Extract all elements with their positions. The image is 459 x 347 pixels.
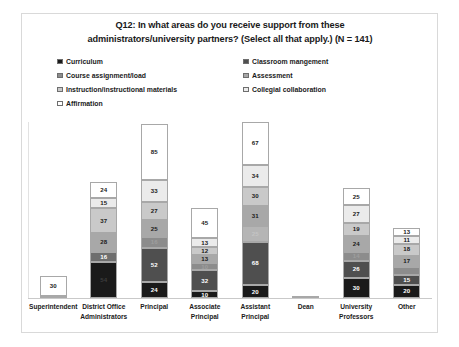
bar-segment-value-label: 24 [100,187,107,193]
bar-segment[interactable]: 19 [343,223,370,236]
bar-segment-value-label: 52 [151,262,158,268]
bar-segment[interactable]: 31 [242,206,269,226]
bar-segment[interactable]: 24 [90,182,117,198]
x-axis-category-label: Superintendent [28,302,79,312]
bar-stack[interactable]: 25271924142630 [343,122,370,298]
legend-item[interactable]: Instruction/instructional materials [57,86,177,93]
bar-segment[interactable] [40,296,67,298]
bar-segment[interactable]: 16 [90,252,117,263]
bar-segment[interactable] [393,267,420,275]
bar-segment[interactable]: 14 [343,252,370,261]
x-axis-category-label: AssistantPrincipal [230,302,281,321]
bar-stack[interactable]: 45131213103210 [191,122,218,298]
legend-swatch-icon [243,87,249,93]
bar-segment[interactable]: 16 [141,237,168,248]
bar-segment[interactable]: 12 [191,247,218,255]
bar-segment[interactable]: 26 [343,261,370,278]
bar-segment-value-label: 26 [353,266,360,272]
bar-segment[interactable]: 11 [393,236,420,243]
bar-segment-value-label: 30 [252,193,259,199]
legend-item[interactable]: Affirmation [57,100,103,107]
bar-segment[interactable]: 20 [393,285,420,298]
bar-segment[interactable]: 17 [393,256,420,267]
bar-segment-value-label: 28 [100,239,107,245]
bar-segment[interactable]: 20 [242,285,269,298]
bar-segment-value-label: 10 [201,264,208,270]
bar-segment[interactable]: 85 [141,124,168,180]
bar-segment[interactable]: 68 [242,242,269,285]
legend-swatch-icon [243,59,249,65]
chart-title-line-1: Q12: In what areas do you receive suppor… [30,18,430,32]
legend-item[interactable]: Collegial collaboration [243,86,326,93]
bar-segment-value-label: 37 [100,218,107,224]
bar-segment[interactable]: 24 [343,236,370,252]
bar-segment[interactable]: 28 [90,233,117,252]
x-axis-category-label-line: Dean [281,302,332,312]
bar-stack[interactable]: 241537281654 [90,122,117,298]
bar-segment-value-label: 54 [100,277,107,283]
bar-segment[interactable]: 30 [40,276,67,296]
x-axis-category-label-line: Principal [129,302,180,312]
bar-stack[interactable] [292,122,319,298]
bar-segment[interactable]: 54 [90,262,117,298]
legend-item[interactable]: Curriculum [57,58,103,65]
bar-segment-value-label: 11 [404,237,410,243]
legend-swatch-icon [57,59,63,65]
legend-item-label: Assessment [252,72,293,79]
bar-segment[interactable]: 15 [90,198,117,208]
legend-item[interactable]: Classroom mangement [243,58,328,65]
bar-segment[interactable]: 10 [191,263,218,270]
legend-item-label: Course assignment/load [66,72,146,79]
legend-item[interactable]: Assessment [243,72,293,79]
bar-segment-value-label: 30 [353,285,360,291]
bar-stack[interactable]: 85332725165224 [141,122,168,298]
bar-segment[interactable]: 15 [393,275,420,285]
legend-item-label: Instruction/instructional materials [66,86,177,93]
bar-stack[interactable]: 67343031256820 [242,122,269,298]
bar-segment-value-label: 32 [201,278,208,284]
bar-stack[interactable]: 30 [40,122,67,298]
bar-segment[interactable]: 25 [343,188,370,205]
chart-title: Q12: In what areas do you receive suppor… [30,18,430,46]
bar-segment-value-label: 27 [353,211,360,217]
plot-area: 3024153728165485332725165224451312131032… [28,122,432,298]
x-axis-category-label-line: University [331,302,382,312]
bar-segment-value-label: 33 [151,188,158,194]
bar-segment-value-label: 15 [100,200,107,206]
bar-segment[interactable]: 30 [343,278,370,298]
x-axis-category-label-line: District Office [79,302,130,312]
legend-swatch-icon [57,87,63,93]
legend-item-label: Classroom mangement [252,58,328,65]
bar-segment[interactable]: 10 [191,291,218,298]
bar-segment[interactable]: 27 [141,202,168,220]
bar-segment-value-label: 68 [252,260,259,266]
bar-segment[interactable]: 25 [141,220,168,237]
bar-segment[interactable]: 13 [191,255,218,264]
bar-segment[interactable]: 27 [343,205,370,223]
bar-segment[interactable]: 34 [242,165,269,187]
bar-segment[interactable]: 18 [393,244,420,256]
bar-segment-value-label: 45 [201,220,208,226]
bar-segment[interactable]: 67 [242,122,269,165]
bar-segment[interactable]: 52 [141,248,168,283]
bar-segment[interactable]: 45 [191,208,218,238]
bar-segment[interactable]: 24 [141,282,168,298]
bar-segment[interactable]: 30 [242,187,269,206]
bar-segment[interactable] [292,296,319,298]
bar-segment[interactable]: 37 [90,208,117,233]
bar-segment[interactable]: 33 [141,180,168,202]
bar-segment[interactable]: 13 [393,228,420,237]
bar-segment[interactable]: 32 [191,270,218,291]
legend-swatch-icon [243,73,249,79]
bar-stack[interactable]: 131118171520 [393,122,420,298]
bar-segment-value-label: 13 [403,229,410,235]
bar-segment-value-label: 16 [100,254,107,260]
bar-segment[interactable]: 25 [242,226,269,242]
bar-segment[interactable]: 13 [191,238,218,247]
x-axis-category-label-line: Assistant [230,302,281,312]
x-axis-category-label-line: Administrators [79,312,130,322]
bar-segment-value-label: 20 [403,288,410,294]
x-axis-category-label-line: Superintendent [28,302,79,312]
legend-item[interactable]: Course assignment/load [57,72,146,79]
legend-swatch-icon [57,101,63,107]
